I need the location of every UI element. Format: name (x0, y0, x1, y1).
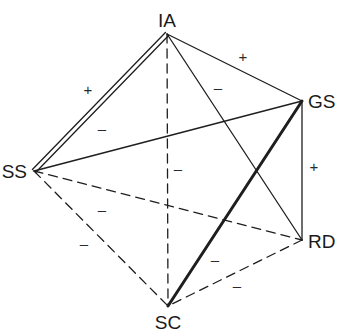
signed-graph-diagram: ++–––+–––– IAGSSSRDSC (0, 0, 337, 333)
node-label-sc: SC (155, 312, 181, 333)
edge-ia-sc (167, 34, 168, 306)
node-label-ss: SS (2, 161, 27, 182)
sign-label-ss-sc: – (80, 235, 89, 252)
edge-gs-sc (168, 101, 302, 306)
nodes-layer: IAGSSSRDSC (2, 10, 336, 333)
edge-ss-sc (34, 171, 168, 306)
node-label-gs: GS (308, 91, 335, 112)
edge-ia-ss (32, 32, 168, 172)
sign-label-ss-rd: – (98, 201, 107, 218)
edges-layer (32, 32, 302, 306)
sign-label-ia-sc: – (174, 160, 183, 177)
edge-ia-gs (167, 34, 302, 101)
node-label-rd: RD (308, 231, 335, 252)
sign-label-rd-sc: – (233, 277, 242, 294)
sign-label-ia-gs: + (239, 48, 248, 65)
sign-label-ia-ss: + (84, 81, 93, 98)
sign-label-gs-rd: + (310, 158, 319, 175)
node-label-ia: IA (158, 10, 176, 31)
sign-label-ss-gs: – (98, 120, 107, 137)
sign-label-ia-rd: – (214, 79, 223, 96)
edge-ia-rd (167, 34, 302, 240)
sign-label-gs-sc: – (211, 251, 220, 268)
